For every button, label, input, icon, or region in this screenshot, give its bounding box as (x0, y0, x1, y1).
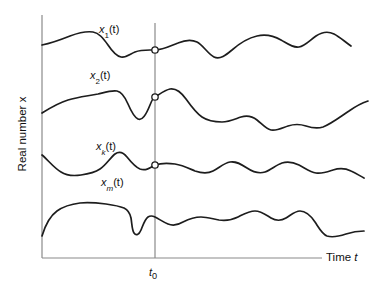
plot-canvas (0, 0, 376, 298)
curve-label-x2: x2(t) (90, 70, 110, 81)
stochastic-process-figure: Real number x Time t t0 x1(t) x2(t) xk(t… (0, 0, 376, 298)
sample-path-x1 (42, 32, 351, 58)
curve-label-x2-suffix: (t) (100, 69, 110, 81)
curve-label-x2-symbol: x (90, 69, 96, 81)
curve-label-x1-subscript: 1 (105, 31, 109, 40)
curve-label-x1-symbol: x (99, 23, 105, 35)
x-axis-label: Time t (326, 251, 358, 263)
curve-label-x1-suffix: (t) (109, 23, 119, 35)
curve-label-xm-subscript: m (107, 184, 114, 193)
y-axis-label: Real number x (16, 79, 28, 189)
curve-label-xk: xk(t) (96, 141, 116, 152)
t0-subscript: 0 (152, 271, 157, 281)
x-axis-label-text: Time (326, 251, 354, 263)
curve-label-xk-suffix: (t) (106, 140, 116, 152)
curve-label-xm: xm(t) (101, 177, 124, 188)
x-axis-label-symbol: t (354, 251, 357, 263)
curve-label-x1: x1(t) (99, 24, 119, 35)
t0-tick-label: t0 (149, 266, 157, 281)
curve-label-xm-suffix: (t) (113, 176, 123, 188)
curve-label-x2-subscript: 2 (96, 77, 100, 86)
sample-path-xk (42, 152, 364, 178)
crossing-marker-x1 (152, 47, 158, 53)
sample-path-x2 (42, 89, 368, 130)
crossing-marker-xk (152, 162, 158, 168)
crossing-marker-x2 (152, 94, 158, 100)
curve-label-xk-subscript: k (102, 148, 106, 157)
sample-path-xm (42, 203, 364, 237)
